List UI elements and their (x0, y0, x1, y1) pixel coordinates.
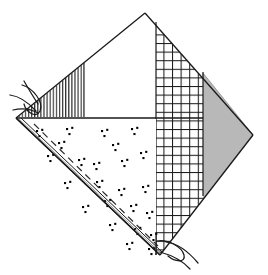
stipple-dot (49, 160, 51, 162)
stipple-dot (117, 143, 119, 145)
stipple-dot (150, 234, 152, 236)
stipple-dot (66, 187, 68, 189)
stipple-dot (36, 130, 38, 132)
stipple-dot (148, 248, 150, 250)
stipple-dot (47, 155, 49, 157)
stipple-dot (71, 127, 73, 129)
stipple-dot (83, 158, 85, 160)
stipple-dot (135, 204, 137, 206)
stipple-dot (80, 164, 82, 166)
stipple-dot (128, 248, 130, 250)
stipple-dot (114, 223, 116, 225)
stipple-dot (106, 129, 108, 131)
stipple-dot (126, 243, 128, 245)
stipple-dot (144, 191, 146, 193)
stipple-dot (146, 212, 148, 214)
stipple-dot (131, 242, 133, 244)
stipple-dot (93, 163, 95, 165)
stipple-dot (126, 159, 128, 161)
stipple-dot (68, 133, 70, 135)
diagram-canvas (0, 0, 268, 275)
stipple-dot (133, 133, 135, 135)
stipple-dot (101, 180, 103, 182)
stipple-dot (114, 149, 116, 151)
stipple-dot (151, 211, 153, 213)
stipple-dot (130, 205, 132, 207)
stipple-dot (103, 135, 105, 137)
stipple-dot (145, 151, 147, 153)
stipple-dot (140, 152, 142, 154)
stipple-dot (82, 206, 84, 208)
stipple-dot (123, 188, 125, 190)
gray-band (203, 20, 268, 260)
stipple-dot (142, 186, 144, 188)
stipple-dot (118, 189, 120, 191)
break-mark-left-tail-c (24, 81, 38, 104)
stipple-dot (152, 239, 154, 241)
stipple-dot (147, 185, 149, 187)
stipple-dot (120, 194, 122, 196)
stipple-dot (96, 181, 98, 183)
stipple-dot (60, 147, 62, 149)
stipple-dot (109, 224, 111, 226)
stipple-dot (150, 253, 152, 255)
stipple-dot (121, 160, 123, 162)
stipple-dot (112, 144, 114, 146)
stipple-dot (111, 229, 113, 231)
stipple-dot (131, 128, 133, 130)
region-cross-hatch (156, 10, 203, 260)
stipple-dot (66, 128, 68, 130)
stipple-dot (101, 130, 103, 132)
figure-root (0, 0, 268, 275)
stipple-dot (132, 210, 134, 212)
stipple-dot (78, 159, 80, 161)
stipple-dot (41, 129, 43, 131)
stipple-dot (63, 141, 65, 143)
stipple-dot (136, 127, 138, 129)
gray-band-clipped (203, 20, 268, 260)
stipple-dot (123, 165, 125, 167)
stipple-dot (87, 205, 89, 207)
grid-band (156, 10, 203, 260)
stipple-dot (69, 181, 71, 183)
stipple-dot (98, 162, 100, 164)
stipple-dot (84, 211, 86, 213)
stipple-dot (142, 157, 144, 159)
stipple-dot (148, 217, 150, 219)
stipple-dot (95, 168, 97, 170)
stipple-dot (58, 142, 60, 144)
stipple-dot (64, 182, 66, 184)
